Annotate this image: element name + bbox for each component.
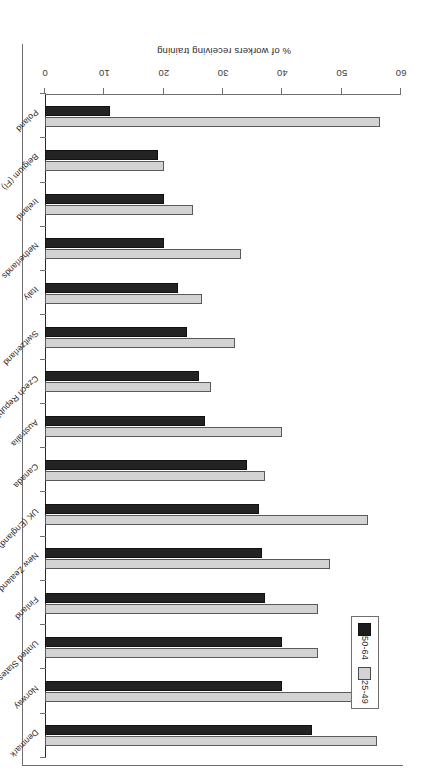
light-square-swatch — [359, 667, 372, 680]
value-tick-label: 0 — [25, 68, 65, 79]
bar-25-49 — [45, 604, 318, 614]
category-label: Canada — [12, 462, 41, 491]
bar-50-64 — [45, 725, 312, 735]
bar-50-64 — [45, 460, 247, 470]
value-tick-label: 40 — [262, 68, 302, 79]
rotated-figure: 0102030405060 DenmarkNorwayUnited States… — [0, 0, 425, 782]
bar-25-49 — [45, 294, 202, 304]
value-axis-title: % of workers receiving training — [45, 46, 403, 57]
chart-legend: 25-49 50-64 — [351, 616, 379, 709]
bar-50-64 — [45, 238, 164, 248]
bar-25-49 — [45, 338, 235, 348]
bar-25-49 — [45, 515, 368, 525]
bar-25-49 — [45, 736, 377, 746]
bar-group — [45, 448, 403, 492]
bar-25-49 — [45, 648, 318, 658]
bar-group — [45, 315, 403, 359]
bar-group — [45, 537, 403, 581]
value-tick-label: 50 — [322, 68, 362, 79]
bar-50-64 — [45, 681, 282, 691]
category-label: Netherlands — [0, 240, 41, 281]
bar-25-49 — [45, 205, 193, 215]
bar-50-64 — [45, 283, 179, 293]
bar-group — [45, 714, 403, 758]
bar-50-64 — [45, 150, 158, 160]
bar-group — [45, 227, 403, 271]
bar-group — [45, 271, 403, 315]
category-label: Poland — [14, 108, 40, 134]
bars-layer — [45, 94, 403, 758]
bar-25-49 — [45, 161, 164, 171]
category-label: Ireland — [14, 196, 40, 222]
value-tick-label: 30 — [203, 68, 243, 79]
bar-25-49 — [45, 427, 282, 437]
bar-50-64 — [45, 504, 259, 514]
bar-25-49 — [45, 117, 380, 127]
bar-50-64 — [45, 416, 205, 426]
bar-25-49 — [45, 559, 330, 569]
bar-group — [45, 669, 403, 713]
bar-group — [45, 625, 403, 669]
bar-50-64 — [45, 637, 282, 647]
legend-label-50-64: 50-64 — [360, 636, 370, 660]
bar-group — [45, 94, 403, 138]
category-label: United States — [0, 639, 41, 683]
value-tick-label: 10 — [84, 68, 124, 79]
legend-label-25-49: 25-49 — [360, 680, 370, 704]
chart-plot-area: 0102030405060 DenmarkNorwayUnited States… — [22, 44, 403, 766]
category-label: Australia — [9, 417, 40, 448]
legend-entry-50-64: 50-64 — [355, 621, 375, 660]
bar-group — [45, 581, 403, 625]
bar-25-49 — [45, 471, 265, 481]
bar-25-49 — [45, 249, 241, 259]
value-tick-label: 20 — [144, 68, 184, 79]
category-label: Switzerland — [1, 329, 40, 368]
category-label: Czech Republic — [0, 373, 41, 424]
bar-25-49 — [45, 692, 354, 702]
bar-group — [45, 138, 403, 182]
category-label: New Zealand — [0, 550, 41, 594]
category-label: UK (England) — [0, 506, 41, 550]
value-tick-label: 60 — [381, 68, 421, 79]
bar-50-64 — [45, 327, 187, 337]
category-label: Belgium (Fl) — [0, 152, 41, 193]
bar-group — [45, 404, 403, 448]
plot-frame-top-border — [22, 765, 403, 766]
category-label: Denmark — [8, 727, 40, 759]
bar-25-49 — [45, 382, 211, 392]
bar-50-64 — [45, 371, 199, 381]
bar-50-64 — [45, 194, 164, 204]
bar-50-64 — [45, 106, 110, 116]
legend-entry-25-49: 25-49 — [355, 665, 375, 704]
bar-50-64 — [45, 593, 265, 603]
bar-group — [45, 360, 403, 404]
bar-50-64 — [45, 548, 262, 558]
category-label: Italy — [22, 285, 41, 304]
bar-group — [45, 183, 403, 227]
category-label: Norway — [12, 683, 40, 711]
category-label: Finland — [13, 595, 40, 622]
bar-group — [45, 492, 403, 536]
dark-square-swatch — [359, 623, 372, 636]
